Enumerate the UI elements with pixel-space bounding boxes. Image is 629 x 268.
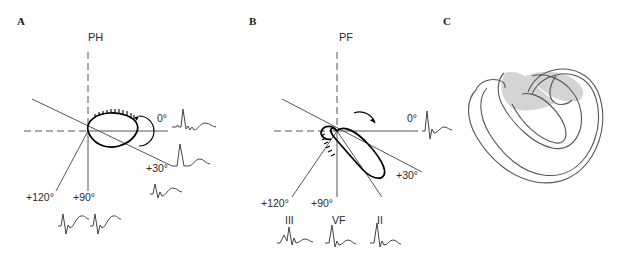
panel-a-qrs-loop (88, 113, 138, 147)
panel-a-axis-30 (32, 99, 172, 166)
panel-b-axis-120 (292, 131, 337, 197)
panel-a-ecg-30 (172, 144, 210, 166)
panel-b-ecg-lead-iii (277, 227, 313, 245)
panel-b-rotation-arrowhead (370, 119, 375, 124)
panel-b-qrs-loop (331, 128, 385, 178)
panel-a-diagram (24, 52, 216, 234)
panel-a-ecg-0 (172, 109, 216, 130)
panel-b-ecg-lead-ii (370, 223, 401, 247)
panel-a-axis-120 (56, 131, 88, 191)
panel-b-diagram (274, 52, 452, 247)
panel-c-left-tip (476, 79, 505, 90)
panel-a-ecg-30-lower (150, 184, 182, 198)
panel-b-ecg-0 (422, 111, 452, 139)
panel-c-diagram (469, 69, 603, 183)
figure-vector-layer (0, 0, 629, 268)
panel-b-ecg-lead-vf (325, 225, 356, 247)
figure-container: A B C PH PF 0° +30° +90° +120° 0° +30° +… (0, 0, 629, 268)
panel-a-ecg-120 (58, 214, 89, 234)
panel-b-axis-30 (282, 99, 422, 172)
panel-b-axis-60 (337, 131, 382, 197)
panel-a-ecg-90 (90, 214, 121, 234)
